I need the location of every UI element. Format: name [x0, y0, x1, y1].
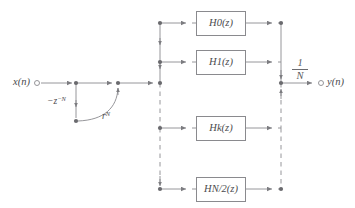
filter-block-h0[interactable]: H0(z) — [196, 11, 246, 36]
delay-coefficient-label: −z−N — [47, 96, 66, 107]
radius-exponent: N — [106, 110, 110, 117]
input-signal-label: x(n) — [13, 77, 30, 88]
filter-block-hk-label: Hk(z) — [209, 123, 232, 134]
output-gain-label: 1 N — [292, 58, 308, 81]
filter-block-h1[interactable]: H1(z) — [196, 50, 246, 75]
filter-block-h1-label: H1(z) — [209, 57, 233, 68]
filter-block-h0-label: H0(z) — [209, 18, 233, 29]
output-signal-label: y(n) — [327, 77, 344, 88]
radius-coefficient-label: rN — [102, 111, 110, 122]
gain-denominator: N — [292, 71, 308, 82]
filter-block-hn2[interactable]: HN/2(z) — [196, 177, 246, 202]
delay-exponent: −N — [57, 95, 66, 102]
gain-numerator: 1 — [292, 58, 308, 69]
filter-block-hk[interactable]: Hk(z) — [196, 116, 246, 141]
diagram-canvas: x(n) y(n) −z−N rN H0(z) H1(z) Hk(z) HN/2… — [0, 0, 355, 208]
filter-block-hn2-label: HN/2(z) — [204, 184, 238, 195]
